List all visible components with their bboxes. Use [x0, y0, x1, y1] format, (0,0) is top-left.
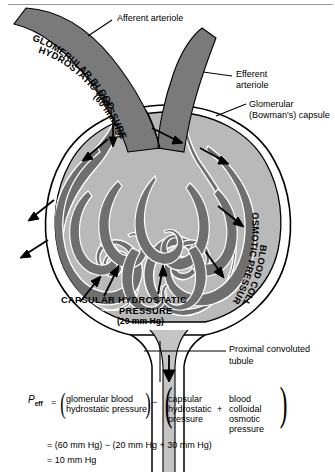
equation-paren-close-2: )	[280, 381, 288, 427]
label-proximal-tubule-line1: Proximal convoluted	[229, 344, 310, 355]
equation-minus: −	[152, 397, 157, 408]
leader-capsule	[216, 104, 246, 116]
label-glomerular-capsule-line2: (Bowman's) capsule	[249, 110, 330, 121]
equation-term2a-line2: hydrostatic	[168, 404, 212, 415]
label-efferent-arteriole-line2: arteriole	[236, 80, 269, 91]
equation-result-line1: = (60 mm Hg) − (20 mm Hg + 30 mm Hg)	[47, 440, 212, 451]
label-proximal-tubule-line2: tubule	[229, 356, 254, 367]
equation-peff-symbol: Peff	[28, 395, 43, 410]
equation-term2a-line3: pressure	[168, 414, 203, 425]
label-afferent-arteriole: Afferent arteriole	[117, 13, 183, 24]
equation-paren-open-1: (	[60, 388, 66, 418]
figure-page: GLOMERULAR BLOOD HYDROSTATIC PRESSURE (6…	[0, 0, 335, 472]
equation-paren-close-1: )	[145, 388, 151, 418]
equation-term2b-line3: osmotic	[229, 414, 260, 425]
equation-p: P	[28, 394, 35, 405]
leader-efferent	[203, 72, 232, 76]
equation-plus: +	[217, 404, 222, 415]
equation-result-line2: = 10 mm Hg	[47, 455, 96, 466]
label-capsular-hydrostatic-line3: (20 mm Hg)	[117, 316, 164, 327]
equation-equals-1: =	[51, 397, 56, 408]
arrow-left-outward-lower	[20, 240, 48, 258]
equation-term2b-line2: colloidal	[229, 404, 262, 415]
equation-term2b-line4: pressure	[229, 424, 264, 435]
equation-term1-line2: hydrostatic pressure	[66, 404, 147, 415]
equation-term2a-line1: capsular	[168, 394, 202, 405]
equation-term1-line1: glomerular blood	[66, 394, 133, 405]
equation-eff-subscript: eff	[35, 400, 43, 407]
label-glomerular-capsule-line1: Glomerular	[249, 99, 294, 110]
leader-afferent	[88, 20, 112, 36]
label-efferent-arteriole-line1: Efferent	[236, 69, 267, 80]
equation-term2b-line1: blood	[229, 394, 251, 405]
label-capsular-hydrostatic-line1: CAPSULAR HYDROSTATIC	[61, 295, 187, 306]
